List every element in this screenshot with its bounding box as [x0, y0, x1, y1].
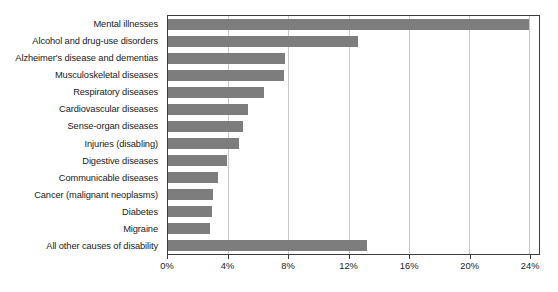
bar-row: [168, 169, 539, 186]
category-label: Cardiovascular diseases: [0, 101, 163, 118]
plot-area: [167, 15, 540, 255]
bar-row: [168, 186, 539, 203]
bar: [168, 104, 248, 115]
bar-row: [168, 50, 539, 67]
bar-row: [168, 152, 539, 169]
bar: [168, 240, 367, 251]
bar-row: [168, 16, 539, 33]
bar-row: [168, 101, 539, 118]
bar: [168, 138, 239, 149]
bar: [168, 206, 212, 217]
tick-label: 20%: [460, 261, 479, 271]
bar-row: [168, 118, 539, 135]
category-label: Mental illnesses: [0, 15, 163, 32]
category-label: Migraine: [0, 221, 163, 238]
bar-row: [168, 237, 539, 254]
bar: [168, 121, 243, 132]
bar-chart: Mental illnessesAlcohol and drug-use dis…: [0, 0, 558, 292]
tick-label: 12%: [339, 261, 358, 271]
category-label: Injuries (disabling): [0, 135, 163, 152]
bar-row: [168, 220, 539, 237]
bar: [168, 19, 529, 30]
bar: [168, 70, 284, 81]
tick-label: 8%: [281, 261, 294, 271]
bar-row: [168, 33, 539, 50]
tick-mark: [530, 255, 531, 259]
bar-row: [168, 135, 539, 152]
bar-row: [168, 84, 539, 101]
category-label: Alzheimer's disease and dementias: [0, 49, 163, 66]
category-label: Communicable diseases: [0, 169, 163, 186]
bar: [168, 189, 213, 200]
tick-label: 0%: [160, 261, 173, 271]
bar: [168, 87, 264, 98]
bar: [168, 155, 227, 166]
value-axis: 0%4%8%12%16%20%24%: [167, 255, 540, 277]
category-label: Diabetes: [0, 204, 163, 221]
tick-mark: [349, 255, 350, 259]
category-label: All other causes of disability: [0, 238, 163, 255]
category-label: Sense-organ diseases: [0, 118, 163, 135]
tick-mark: [228, 255, 229, 259]
bar-row: [168, 203, 539, 220]
category-label: Cancer (malignant neoplasms): [0, 186, 163, 203]
bar-row: [168, 67, 539, 84]
bar: [168, 53, 285, 64]
bars-layer: [168, 16, 539, 254]
bar: [168, 172, 218, 183]
category-label: Musculoskeletal diseases: [0, 66, 163, 83]
bar: [168, 36, 358, 47]
tick-mark: [470, 255, 471, 259]
category-label: Digestive diseases: [0, 152, 163, 169]
tick-mark: [167, 255, 168, 259]
tick-label: 16%: [400, 261, 419, 271]
tick-mark: [409, 255, 410, 259]
tick-mark: [288, 255, 289, 259]
bar: [168, 223, 210, 234]
category-label: Respiratory diseases: [0, 84, 163, 101]
category-label: Alcohol and drug-use disorders: [0, 32, 163, 49]
category-axis-labels: Mental illnessesAlcohol and drug-use dis…: [0, 15, 163, 255]
tick-label: 24%: [521, 261, 540, 271]
tick-label: 4%: [221, 261, 234, 271]
